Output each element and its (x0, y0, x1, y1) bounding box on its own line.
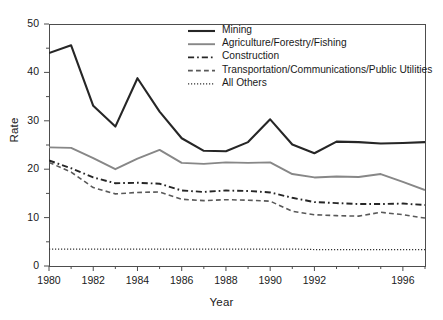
legend-label-0: Mining (222, 24, 252, 35)
series-line-0 (49, 45, 425, 153)
series-line-3 (49, 162, 425, 218)
y-tick-label: 50 (9, 17, 39, 29)
x-tick-label: 1990 (250, 274, 290, 286)
y-axis-title: Rate (8, 100, 20, 160)
x-tick-label: 1996 (383, 274, 423, 286)
x-tick-label: 1988 (206, 274, 246, 286)
x-tick-label: 1992 (294, 274, 334, 286)
series-line-2 (49, 160, 425, 205)
y-tick-label: 20 (9, 162, 39, 174)
y-tick-label: 10 (9, 211, 39, 223)
x-tick-label: 1984 (117, 274, 157, 286)
series-line-1 (49, 147, 425, 190)
legend-label-1: Agriculture/Forestry/Fishing (222, 37, 347, 48)
legend-label-3: Transportation/Communications/Public Uti… (222, 64, 432, 75)
x-tick-label: 1986 (162, 274, 202, 286)
y-tick-label: 30 (9, 114, 39, 126)
legend-label-4: All Others (222, 77, 267, 88)
chart-figure: Rate Year 010203040501980198219841986198… (0, 0, 443, 320)
legend-label-2: Construction (222, 50, 279, 61)
x-axis-title: Year (0, 296, 443, 308)
y-tick-label: 0 (9, 259, 39, 271)
y-tick-label: 40 (9, 65, 39, 77)
x-tick-label: 1980 (29, 274, 69, 286)
x-tick-label: 1982 (73, 274, 113, 286)
